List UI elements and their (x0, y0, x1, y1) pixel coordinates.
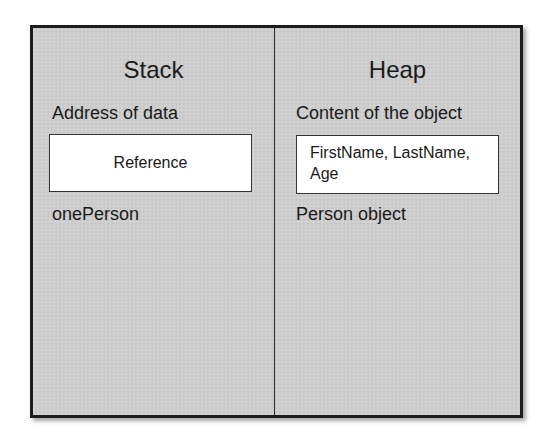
stack-caption-address: Address of data (52, 103, 178, 124)
object-fields-line1: FirstName, LastName, (310, 142, 498, 163)
heap-caption-content: Content of the object (296, 103, 462, 124)
stack-heading: Stack (33, 56, 274, 84)
object-fields-line2: Age (310, 163, 498, 184)
stack-caption-variable: onePerson (52, 204, 139, 225)
reference-label: Reference (114, 154, 188, 172)
heap-column: Heap Content of the object FirstName, La… (275, 28, 520, 415)
heap-heading: Heap (275, 56, 520, 84)
object-content-box: FirstName, LastName, Age (296, 135, 499, 194)
stack-column: Stack Address of data Reference onePerso… (33, 28, 274, 415)
heap-caption-object: Person object (296, 204, 406, 225)
memory-diagram-frame: Stack Address of data Reference onePerso… (30, 25, 523, 418)
reference-box: Reference (49, 134, 252, 192)
